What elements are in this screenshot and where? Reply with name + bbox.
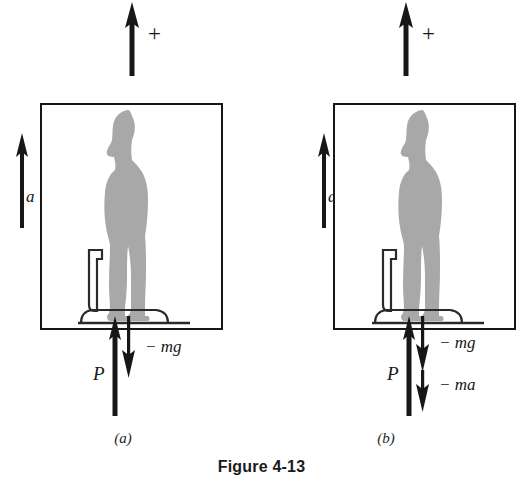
panel-b: + a bbox=[261, 0, 523, 470]
force-label-P-b: P bbox=[387, 364, 399, 383]
force-label-ma-b: − ma bbox=[439, 376, 476, 393]
force-label-P-a: P bbox=[93, 364, 105, 383]
figure-caption: Figure 4-13 bbox=[0, 458, 523, 476]
reference-direction-arrow-b bbox=[394, 2, 418, 76]
force-label-mg-b: − mg bbox=[439, 334, 476, 351]
plus-sign-b: + bbox=[422, 22, 435, 45]
plus-sign-a: + bbox=[148, 22, 161, 45]
force-vectors-a bbox=[78, 300, 228, 418]
panel-label-a: (a) bbox=[0, 430, 254, 447]
force-label-mg-a: − mg bbox=[145, 338, 182, 355]
force-vectors-b bbox=[372, 300, 522, 418]
panel-label-b: (b) bbox=[255, 430, 517, 447]
acceleration-arrow-a bbox=[12, 133, 34, 228]
panel-a: + a bbox=[0, 0, 262, 470]
figure-4-13: + a bbox=[0, 0, 523, 482]
acceleration-label-a: a bbox=[26, 188, 35, 205]
reference-direction-arrow-a bbox=[120, 2, 144, 76]
